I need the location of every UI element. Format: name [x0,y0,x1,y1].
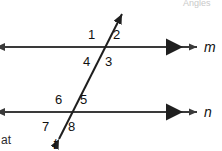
line-m-parallel-mark [166,39,183,56]
angle-label-4: 4 [83,55,90,68]
line-n-parallel-mark [166,104,183,121]
angle-label-6: 6 [55,93,62,106]
angle-label-5: 5 [80,93,87,106]
line-n [5,104,197,121]
line-label-n: n [204,105,212,119]
clipped-heading-text: Angles [183,0,211,8]
parallel-lines-transversal-figure: Angles at 1 2 3 4 5 6 7 8 m n t [0,0,222,151]
line-label-m: m [204,40,216,54]
angle-label-7: 7 [42,120,49,133]
geometry-diagram [0,0,222,151]
angle-label-3: 3 [105,55,112,68]
clipped-caption-text: at [1,134,11,146]
angle-label-2: 2 [113,28,120,41]
line-m [5,39,197,56]
angle-label-1: 1 [88,28,95,41]
angle-label-8: 8 [68,120,75,133]
line-label-t: t [53,137,57,151]
